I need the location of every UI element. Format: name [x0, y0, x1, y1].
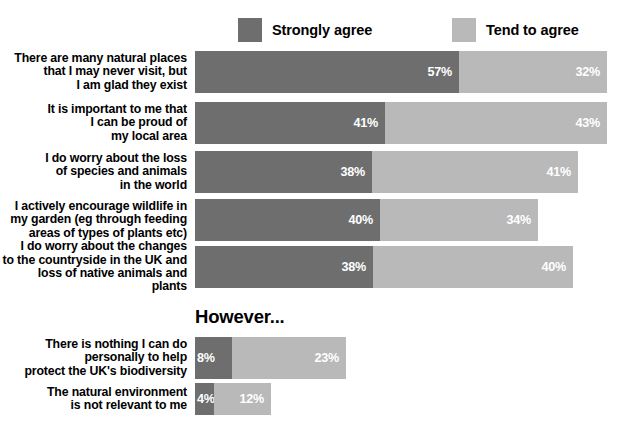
- bar-segment-tend-to-agree: 23%: [232, 337, 346, 379]
- row-label: The natural environment is not relevant …: [0, 386, 191, 413]
- chart-row: There is nothing I can do personally to …: [0, 337, 619, 379]
- bar-segment-strongly-agree: 40%: [195, 199, 380, 241]
- bar-value-strongly-agree: 38%: [341, 260, 373, 274]
- chart-row: I do worry about the loss of species and…: [0, 151, 619, 193]
- row-bar: 41%43%: [195, 102, 607, 144]
- row-label: I do worry about the loss of species and…: [0, 152, 191, 192]
- bar-segment-strongly-agree: 57%: [195, 51, 459, 93]
- bar-value-tend-to-agree: 12%: [239, 392, 271, 406]
- bar-value-tend-to-agree: 41%: [546, 165, 578, 179]
- row-bar: 40%34%: [195, 199, 538, 241]
- row-label: It is important to me that I can be prou…: [0, 103, 191, 143]
- bar-segment-tend-to-agree: 34%: [380, 199, 538, 241]
- bar-value-strongly-agree: 4%: [195, 392, 215, 406]
- bar-segment-tend-to-agree: 40%: [373, 246, 573, 288]
- chart-row: I actively encourage wildlife in my gard…: [0, 199, 619, 241]
- row-bar: 57%32%: [195, 51, 607, 93]
- bar-value-strongly-agree: 40%: [348, 213, 380, 227]
- bar-segment-strongly-agree: 4%: [195, 383, 214, 415]
- bar-value-strongly-agree: 38%: [340, 165, 372, 179]
- chart-row: It is important to me that I can be prou…: [0, 102, 619, 144]
- chart-rows: There are many natural places that I may…: [0, 0, 619, 433]
- bar-segment-tend-to-agree: 41%: [372, 151, 578, 193]
- bar-value-strongly-agree: 57%: [427, 65, 459, 79]
- stacked-bar-chart: Strongly agree Tend to agree However... …: [0, 0, 619, 433]
- bar-value-strongly-agree: 8%: [195, 351, 215, 365]
- bar-segment-tend-to-agree: 12%: [214, 383, 271, 415]
- chart-row: There are many natural places that I may…: [0, 51, 619, 93]
- bar-value-strongly-agree: 41%: [353, 116, 385, 130]
- bar-segment-tend-to-agree: 32%: [459, 51, 607, 93]
- chart-row: The natural environment is not relevant …: [0, 383, 619, 415]
- bar-segment-strongly-agree: 38%: [195, 246, 373, 288]
- row-bar: 8%23%: [195, 337, 346, 379]
- bar-segment-strongly-agree: 41%: [195, 102, 385, 144]
- row-label: I do worry about the changes to the coun…: [0, 240, 191, 294]
- chart-row: I do worry about the changes to the coun…: [0, 246, 619, 288]
- bar-segment-strongly-agree: 38%: [195, 151, 372, 193]
- row-bar: 38%41%: [195, 151, 578, 193]
- bar-segment-tend-to-agree: 43%: [385, 102, 607, 144]
- row-label: There is nothing I can do personally to …: [0, 338, 191, 378]
- bar-value-tend-to-agree: 23%: [314, 351, 346, 365]
- bar-value-tend-to-agree: 32%: [575, 65, 607, 79]
- row-label: There are many natural places that I may…: [0, 52, 191, 92]
- bar-value-tend-to-agree: 40%: [541, 260, 573, 274]
- bar-value-tend-to-agree: 43%: [575, 116, 607, 130]
- row-label: I actively encourage wildlife in my gard…: [0, 200, 191, 240]
- row-bar: 38%40%: [195, 246, 573, 288]
- row-bar: 4%12%: [195, 383, 271, 415]
- bar-value-tend-to-agree: 34%: [506, 213, 538, 227]
- bar-segment-strongly-agree: 8%: [195, 337, 232, 379]
